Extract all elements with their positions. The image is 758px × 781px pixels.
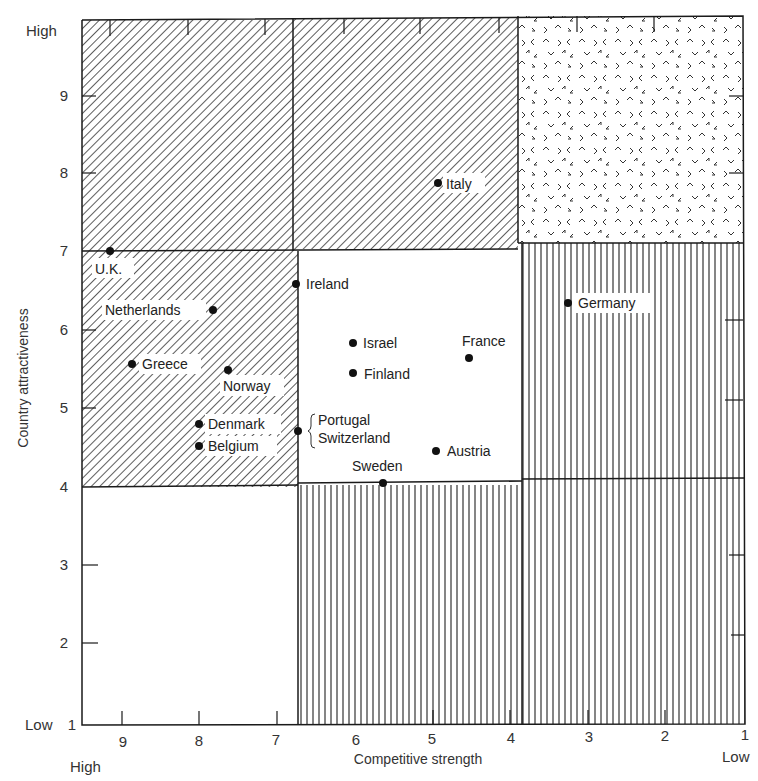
point-greece <box>128 360 136 368</box>
label-norway: Norway <box>223 378 270 394</box>
x-axis-title: Competitive strength <box>354 751 482 767</box>
region-bottom-middle <box>298 485 522 725</box>
label-france: France <box>462 333 506 349</box>
x-tick-5: 5 <box>428 730 436 747</box>
label-finland: Finland <box>364 366 410 382</box>
label-switzerland: Switzerland <box>318 430 390 446</box>
label-uk: U.K. <box>95 261 122 277</box>
label-germany: Germany <box>578 295 636 311</box>
y-tick-2: 2 <box>60 634 68 651</box>
x-tick-2: 2 <box>661 727 669 744</box>
y-low-label: Low <box>25 716 53 733</box>
y-tick-1: 1 <box>68 716 76 733</box>
x-tick-8: 8 <box>195 732 203 749</box>
label-netherlands: Netherlands <box>105 302 181 318</box>
point-ireland <box>292 280 300 288</box>
y-tick-6: 6 <box>60 321 68 338</box>
region-bottom-left <box>82 487 298 725</box>
point-portugal-switzerland <box>294 427 302 435</box>
point-uk <box>106 247 114 255</box>
region-top-right <box>518 16 743 243</box>
label-greece: Greece <box>142 356 188 372</box>
y-tick-4: 4 <box>60 478 68 495</box>
y-tick-5: 5 <box>60 399 68 416</box>
x-low-label: Low <box>722 748 750 765</box>
region-top-left <box>82 20 293 251</box>
label-ireland: Ireland <box>306 276 349 292</box>
x-tick-labels: 9 8 7 6 5 4 3 2 1 <box>119 726 749 750</box>
point-italy <box>434 179 442 187</box>
x-tick-4: 4 <box>507 729 515 746</box>
y-tick-7: 7 <box>60 242 68 259</box>
label-israel: Israel <box>363 335 397 351</box>
label-denmark: Denmark <box>208 416 266 432</box>
region-top-middle <box>293 18 518 251</box>
label-italy: Italy <box>446 176 472 192</box>
region-bottom-right <box>522 479 745 724</box>
region-middle-right <box>520 243 744 479</box>
point-israel <box>349 339 357 347</box>
point-germany <box>564 299 572 307</box>
point-netherlands <box>209 306 217 314</box>
label-portugal: Portugal <box>318 412 370 428</box>
x-tick-1: 1 <box>741 726 749 743</box>
x-tick-6: 6 <box>352 731 360 748</box>
label-sweden: Sweden <box>352 458 403 474</box>
label-austria: Austria <box>447 443 491 459</box>
point-norway <box>224 366 232 374</box>
x-high-label: High <box>70 758 101 775</box>
x-tick-7: 7 <box>272 731 280 748</box>
x-tick-9: 9 <box>119 733 127 750</box>
point-belgium <box>195 442 203 450</box>
y-tick-9: 9 <box>60 87 68 104</box>
y-high-label: High <box>26 22 57 39</box>
y-tick-labels: 9 8 7 6 5 4 3 2 1 <box>60 87 76 733</box>
y-tick-8: 8 <box>60 164 68 181</box>
point-denmark <box>195 420 203 428</box>
point-sweden <box>379 479 387 487</box>
y-tick-3: 3 <box>60 556 68 573</box>
point-france <box>465 354 473 362</box>
x-tick-3: 3 <box>585 728 593 745</box>
point-austria <box>432 447 440 455</box>
y-axis-title: Country attractiveness <box>15 308 31 447</box>
label-belgium: Belgium <box>208 438 259 454</box>
country-matrix-chart: 9 8 7 6 5 4 3 2 1 High Low 9 8 7 6 5 4 3… <box>0 0 758 781</box>
point-finland <box>349 369 357 377</box>
